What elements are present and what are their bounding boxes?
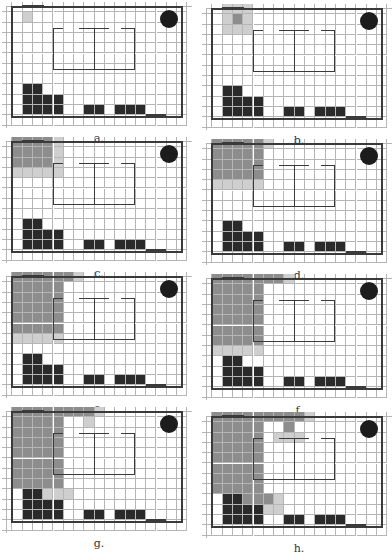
room-right bbox=[134, 163, 135, 205]
door-bottom-right bbox=[146, 114, 166, 116]
room-divider bbox=[294, 438, 295, 480]
wall-bottom bbox=[211, 118, 383, 120]
wall-bottom bbox=[11, 251, 183, 253]
wall-bottom bbox=[211, 526, 383, 528]
door-bottom-right bbox=[346, 251, 366, 253]
room-top-seg2 bbox=[279, 300, 309, 301]
grid-panel-b: b. bbox=[206, 8, 392, 130]
goal-marker-icon bbox=[160, 10, 178, 28]
room-right bbox=[134, 298, 135, 340]
room-top-seg1 bbox=[253, 300, 263, 301]
goal-marker-icon bbox=[160, 280, 178, 298]
room-divider bbox=[294, 300, 295, 342]
goal-marker-icon bbox=[160, 145, 178, 163]
room-top-seg2 bbox=[79, 433, 109, 434]
room-left bbox=[253, 300, 254, 342]
room-left bbox=[253, 438, 254, 480]
wall-right bbox=[181, 276, 183, 388]
room-top-seg1 bbox=[53, 298, 63, 299]
goal-marker-icon bbox=[360, 12, 378, 30]
door-bottom-right bbox=[346, 116, 366, 118]
room-top-seg2 bbox=[279, 438, 309, 439]
goal-marker-icon bbox=[360, 282, 378, 300]
wall-right bbox=[181, 6, 183, 118]
door-bottom-right bbox=[146, 384, 166, 386]
wall-left bbox=[211, 8, 213, 120]
wall-top-left-thick bbox=[222, 142, 244, 145]
wall-top-left-thick bbox=[22, 410, 44, 413]
room-left bbox=[53, 28, 54, 70]
room-top-seg1 bbox=[253, 438, 263, 439]
room-top-seg3 bbox=[321, 300, 335, 301]
door-bottom-right bbox=[346, 524, 366, 526]
grid-panel-d: d. bbox=[206, 143, 392, 265]
room-right bbox=[334, 300, 335, 342]
wall-top-left-thick bbox=[22, 5, 44, 8]
wall-left bbox=[11, 411, 13, 523]
room-divider bbox=[94, 163, 95, 205]
wall-left bbox=[11, 276, 13, 388]
room-top-seg2 bbox=[279, 30, 309, 31]
wall-right bbox=[181, 141, 183, 253]
room-divider bbox=[94, 298, 95, 340]
room-left bbox=[53, 433, 54, 475]
panel-label: g. bbox=[6, 537, 192, 550]
room-top-seg2 bbox=[79, 163, 109, 164]
room-left bbox=[253, 30, 254, 72]
wall-left bbox=[11, 6, 13, 118]
room-right bbox=[334, 165, 335, 207]
room-top-seg1 bbox=[253, 165, 263, 166]
room-divider bbox=[294, 165, 295, 207]
wall-right bbox=[381, 8, 383, 120]
wall-left bbox=[11, 141, 13, 253]
wall-left bbox=[211, 416, 213, 528]
wall-left bbox=[211, 278, 213, 390]
wall-right bbox=[381, 143, 383, 255]
room-top-seg3 bbox=[321, 30, 335, 31]
room-top-seg1 bbox=[53, 163, 63, 164]
room-right bbox=[134, 433, 135, 475]
room-top-seg3 bbox=[321, 438, 335, 439]
wall-top-left-thick bbox=[222, 415, 244, 418]
door-bottom-right bbox=[146, 519, 166, 521]
room-top-seg1 bbox=[253, 30, 263, 31]
door-bottom-right bbox=[146, 249, 166, 251]
room-top-seg3 bbox=[121, 28, 135, 29]
wall-right bbox=[381, 416, 383, 528]
wall-bottom bbox=[11, 116, 183, 118]
panel-label: h. bbox=[206, 542, 392, 555]
room-top-seg3 bbox=[121, 298, 135, 299]
goal-marker-icon bbox=[360, 147, 378, 165]
room-top-seg3 bbox=[121, 163, 135, 164]
room-left bbox=[253, 165, 254, 207]
room-top-seg1 bbox=[53, 28, 63, 29]
grid-panel-f: f. bbox=[206, 278, 392, 400]
goal-marker-icon bbox=[160, 415, 178, 433]
room-divider bbox=[294, 30, 295, 72]
room-right bbox=[334, 438, 335, 480]
room-top-seg3 bbox=[321, 165, 335, 166]
room-left bbox=[53, 298, 54, 340]
grid-panel-h: h. bbox=[206, 416, 392, 538]
room-top-seg2 bbox=[79, 298, 109, 299]
wall-bottom bbox=[11, 521, 183, 523]
room-top-seg2 bbox=[279, 165, 309, 166]
room-top-seg3 bbox=[121, 433, 135, 434]
wall-top-left-thick bbox=[22, 140, 44, 143]
wall-top-left-thick bbox=[222, 7, 244, 10]
wall-bottom bbox=[211, 388, 383, 390]
room-left bbox=[53, 163, 54, 205]
wall-right bbox=[381, 278, 383, 390]
wall-bottom bbox=[11, 386, 183, 388]
wall-right bbox=[181, 411, 183, 523]
room-right bbox=[134, 28, 135, 70]
grid-panel-g: g. bbox=[6, 411, 192, 533]
goal-marker-icon bbox=[360, 420, 378, 438]
wall-top-left-thick bbox=[22, 275, 44, 278]
grid-panel-e: e. bbox=[6, 276, 192, 398]
room-divider bbox=[94, 28, 95, 70]
room-divider bbox=[94, 433, 95, 475]
wall-bottom bbox=[211, 253, 383, 255]
door-bottom-right bbox=[346, 386, 366, 388]
grid-panel-a: a. bbox=[6, 6, 192, 128]
